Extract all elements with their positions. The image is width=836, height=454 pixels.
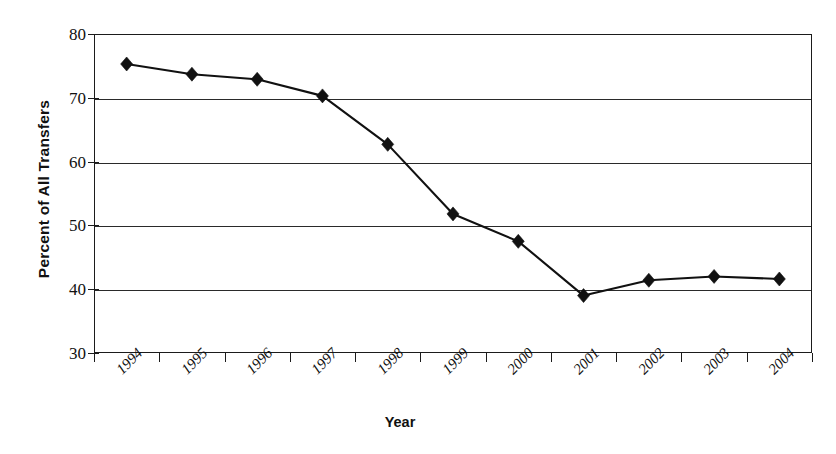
x-axis-tick-mark [486, 353, 487, 362]
y-axis-tick-mark [88, 162, 99, 163]
y-axis-tick-label: 80 [42, 26, 86, 43]
x-axis-title: Year [0, 414, 800, 430]
x-axis-tick-mark [747, 353, 748, 362]
x-axis-tick-mark [420, 353, 421, 362]
y-axis-tick-label: 70 [42, 90, 86, 107]
x-axis-tick-mark [159, 353, 160, 362]
y-axis-tick-mark [88, 225, 99, 226]
gridline [95, 163, 811, 164]
gridline [95, 99, 811, 100]
y-axis-tick-mark [88, 289, 99, 290]
y-axis-tick-mark [88, 98, 99, 99]
y-axis-tick-label: 60 [42, 154, 86, 171]
y-axis-tick-label: 40 [42, 281, 86, 298]
x-axis-tick-mark [681, 353, 682, 362]
x-axis-tick-mark [812, 353, 813, 362]
y-axis-tick-mark [88, 34, 99, 35]
x-axis-tick-mark [355, 353, 356, 362]
x-axis-tick-mark [616, 353, 617, 362]
y-axis-tick-label: 50 [42, 217, 86, 234]
x-axis-tick-mark [290, 353, 291, 362]
x-axis-tick-mark [551, 353, 552, 362]
gridline [95, 226, 811, 227]
gridline [95, 290, 811, 291]
plot-area [94, 34, 812, 353]
x-axis-tick-mark [94, 353, 95, 362]
y-axis-tick-label: 30 [42, 345, 86, 362]
line-chart-figure: Percent of All Transfers 304050607080 Ye… [0, 0, 836, 454]
x-axis-tick-mark [225, 353, 226, 362]
y-axis-tick-labels: 304050607080 [38, 34, 86, 353]
